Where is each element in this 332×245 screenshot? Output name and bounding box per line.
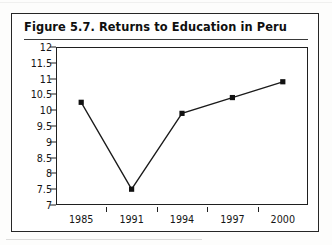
series-polyline: [81, 82, 283, 189]
x-axis-tick-mark: [258, 207, 259, 212]
x-axis-tick-label: 2000: [271, 214, 295, 225]
data-point-marker: [79, 100, 84, 105]
x-axis-tick-label: 1994: [170, 214, 194, 225]
x-axis: 19851991199419972000: [56, 207, 308, 231]
y-axis: 1211.51110.5109.598.587.57: [12, 47, 52, 205]
data-series-line: [56, 47, 308, 205]
figure-box: Figure 5.7. Returns to Education in Peru…: [11, 13, 319, 232]
scan-artifact-bottom: [6, 239, 202, 240]
data-point-marker: [129, 187, 134, 192]
y-axis-tick-label: 10.5: [31, 89, 52, 100]
data-point-marker: [280, 79, 285, 84]
x-axis-tick-label: 1985: [69, 214, 93, 225]
scanned-page: Figure 5.7. Returns to Education in Peru…: [0, 0, 332, 245]
chart-plot-area: 1211.51110.5109.598.587.57 1985199119941…: [12, 14, 320, 233]
x-axis-tick-mark: [157, 207, 158, 212]
data-point-marker: [230, 95, 235, 100]
x-axis-tick-mark: [106, 207, 107, 212]
x-axis-tick-mark: [207, 207, 208, 212]
data-point-marker: [179, 111, 184, 116]
x-axis-tick-label: 1997: [220, 214, 244, 225]
x-axis-tick-label: 1991: [119, 214, 143, 225]
y-axis-tick-label: 11.5: [31, 57, 52, 68]
scan-artifact-top: [0, 2, 332, 3]
